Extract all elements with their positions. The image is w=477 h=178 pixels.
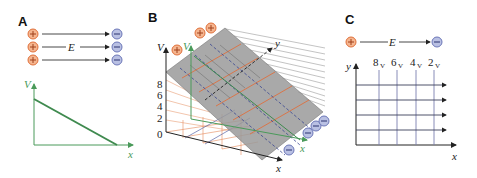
positive-charge-icon — [346, 37, 356, 47]
field-label-e: E — [67, 41, 75, 53]
x-axis-label: x — [127, 148, 133, 160]
field-label-e: E — [388, 36, 396, 48]
positive-charge-icon — [28, 29, 38, 39]
v-tick-2: 2 — [157, 112, 163, 124]
svg-text:V: V — [417, 62, 422, 70]
potential-graph: V x — [24, 78, 133, 160]
v-axis-label: V — [24, 78, 32, 90]
equipotential-label-2v: 2 V — [428, 56, 440, 70]
v-tick-4: 4 — [157, 100, 163, 112]
positive-charge-icon — [28, 55, 38, 65]
equipotential-label-4v: 4 V — [410, 56, 422, 70]
x-axis-label: x — [451, 150, 457, 162]
v-tick-8: 8 — [157, 78, 163, 90]
panel-c: C E y x 8 V 6 V — [345, 12, 457, 162]
svg-text:2: 2 — [428, 56, 434, 68]
positive-charge-icon — [195, 28, 205, 38]
x-axis-label: x — [275, 162, 281, 174]
y-axis-label: y — [274, 37, 280, 49]
equipotential-label-8v: 8 V — [373, 56, 385, 70]
inner-v-axis-label: V — [183, 40, 191, 52]
potential-line — [34, 99, 117, 145]
inner-x-axis-label: x — [299, 142, 305, 154]
negative-charge-icon — [284, 145, 294, 155]
positive-charge-icon — [28, 42, 38, 52]
y-axis-label: y — [345, 60, 351, 72]
v-axis-label: V — [157, 41, 165, 53]
panel-b: B — [148, 10, 329, 174]
panel-a: A E — [18, 14, 133, 160]
svg-text:V: V — [435, 62, 440, 70]
positive-charge-icon — [206, 23, 216, 33]
equipotential-lines — [379, 70, 434, 145]
svg-text:V: V — [380, 62, 385, 70]
svg-text:6: 6 — [391, 56, 397, 68]
panel-b-label: B — [148, 10, 157, 25]
negative-charge-icon — [303, 128, 313, 138]
v-tick-6: 6 — [157, 89, 163, 101]
panel-a-label: A — [18, 14, 28, 29]
equipotential-label-6v: 6 V — [391, 56, 403, 70]
negative-charge-icon — [319, 116, 329, 126]
positive-charge-icon — [172, 45, 182, 55]
field-lines — [356, 85, 446, 130]
svg-text:V: V — [398, 62, 403, 70]
v-tick-0: 0 — [157, 128, 163, 140]
svg-text:4: 4 — [410, 56, 416, 68]
negative-charge-icon — [112, 55, 122, 65]
negative-charge-icon — [432, 37, 442, 47]
negative-charge-icon — [112, 42, 122, 52]
figure-canvas: A E — [0, 0, 477, 178]
svg-text:8: 8 — [373, 56, 379, 68]
panel-c-label: C — [345, 12, 355, 27]
negative-charge-icon — [112, 29, 122, 39]
